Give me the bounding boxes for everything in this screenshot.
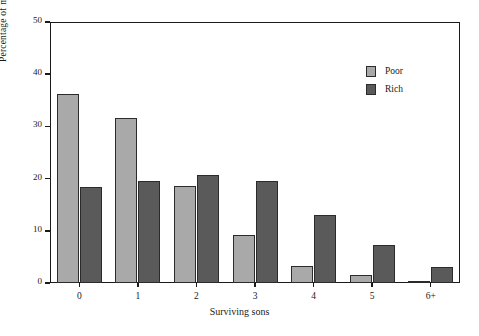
legend-swatch-rich xyxy=(366,84,376,95)
bar-rich-0 xyxy=(80,187,102,283)
legend-item-poor[interactable]: Poor xyxy=(366,62,403,80)
x-tick-label: 0 xyxy=(65,291,93,301)
bar-rich-1 xyxy=(138,181,160,283)
legend-label-poor: Poor xyxy=(385,66,403,76)
y-tick-label: 50 xyxy=(33,15,42,25)
bar-rich-4 xyxy=(314,215,336,283)
y-tick-label: 20 xyxy=(33,172,42,182)
bar-rich-2 xyxy=(197,175,219,283)
bar-poor-0 xyxy=(57,94,79,283)
x-tick-mark xyxy=(79,283,81,287)
x-tick-label: 1 xyxy=(124,291,152,301)
x-tick-mark xyxy=(254,283,256,287)
x-tick-label: 6+ xyxy=(417,291,445,301)
y-tick-label: 30 xyxy=(33,119,42,129)
bar-rich-3 xyxy=(256,181,278,283)
y-axis-title-label: Percentage of married testators xyxy=(0,0,8,62)
x-tick-label: 4 xyxy=(300,291,328,301)
legend-swatch-poor xyxy=(366,66,376,77)
bar-poor-6plus xyxy=(408,281,430,284)
x-tick-label: 5 xyxy=(358,291,386,301)
y-tick-label: 40 xyxy=(33,67,42,77)
legend-item-rich[interactable]: Rich xyxy=(366,80,403,98)
bar-poor-1 xyxy=(115,118,137,283)
bar-poor-2 xyxy=(174,186,196,283)
y-tick-label: 10 xyxy=(33,224,42,234)
x-tick-label: 2 xyxy=(182,291,210,301)
x-tick-mark xyxy=(196,283,198,287)
x-axis-title-label: Surviving sons xyxy=(0,306,479,317)
x-tick-mark xyxy=(430,283,432,287)
legend-label-rich: Rich xyxy=(385,84,403,94)
legend: PoorRich xyxy=(366,62,403,98)
bar-chart-figure: Percentage of married testators 01020304… xyxy=(0,0,479,336)
x-tick-label: 3 xyxy=(241,291,269,301)
bar-rich-6plus xyxy=(431,267,453,283)
x-tick-mark xyxy=(137,283,139,287)
y-tick-label: 0 xyxy=(38,276,43,286)
bar-poor-3 xyxy=(233,235,255,283)
bar-poor-4 xyxy=(291,266,313,283)
bar-poor-5 xyxy=(350,275,372,283)
x-tick-mark xyxy=(371,283,373,287)
x-tick-mark xyxy=(313,283,315,287)
bar-rich-5 xyxy=(373,245,395,283)
